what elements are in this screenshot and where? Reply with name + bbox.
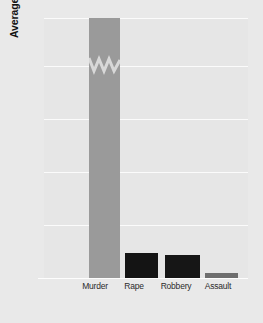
gridline-100000 bbox=[44, 225, 248, 226]
bar-robbery bbox=[165, 255, 200, 278]
plot-area bbox=[44, 18, 248, 278]
bar-murder bbox=[89, 18, 120, 278]
bar-rape bbox=[125, 253, 158, 278]
y-axis-title: Average Bail Amounts for Violent Felonie… bbox=[8, 0, 20, 38]
bar-chart-figure: Average Bail Amounts for Violent Felonie… bbox=[0, 0, 263, 323]
gridline-zero-baseline bbox=[38, 278, 248, 279]
gridline-400000 bbox=[44, 66, 248, 67]
bar-assault bbox=[205, 273, 238, 278]
gridline-200000 bbox=[44, 172, 248, 173]
y-axis-title-container: Average Bail Amounts for Violent Felonie… bbox=[14, 14, 30, 280]
gridline-300000 bbox=[44, 119, 248, 120]
axis-break-zigzag-icon bbox=[89, 54, 120, 76]
x-category-label-assault: Assault bbox=[192, 281, 244, 291]
gridline-1000000 bbox=[44, 18, 248, 19]
